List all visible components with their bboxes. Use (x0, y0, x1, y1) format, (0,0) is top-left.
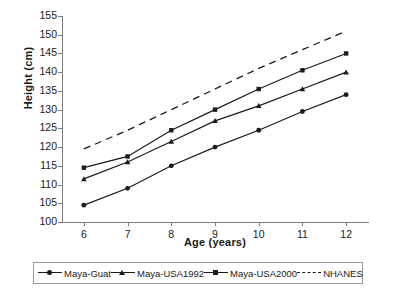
legend-key-icon (204, 268, 228, 278)
data-point (169, 163, 174, 168)
data-point (169, 128, 173, 132)
legend-item-nhanes[interactable]: NHANES (297, 268, 363, 279)
y-tick-label: 100 (31, 215, 57, 227)
legend-label: Maya-USA1992 (137, 268, 204, 279)
chart-legend: Maya-GuatMaya-USA1992Maya-USA2000NHANES (33, 262, 363, 284)
series-canvas (62, 16, 369, 224)
data-point (213, 145, 218, 150)
data-point (300, 68, 304, 72)
plot-area: 100105110115120125130135140145150155 678… (62, 16, 368, 222)
x-tick-label: 8 (159, 228, 183, 240)
legend-key-icon (111, 268, 135, 278)
data-point (81, 203, 86, 208)
legend-item-maya-guat[interactable]: Maya-Guat (38, 268, 111, 279)
x-tick-label: 10 (247, 228, 271, 240)
data-point (213, 107, 217, 111)
data-point (343, 69, 349, 74)
x-tick-label: 12 (334, 228, 358, 240)
data-point (125, 154, 129, 158)
legend-item-maya-usa1992[interactable]: Maya-USA1992 (111, 268, 204, 279)
y-tick-label: 145 (31, 46, 57, 58)
legend-key-icon (297, 268, 321, 278)
data-point (344, 92, 349, 97)
legend-item-maya-usa2000[interactable]: Maya-USA2000 (204, 268, 297, 279)
data-point (125, 186, 130, 191)
data-point (256, 128, 261, 133)
y-tick-label: 115 (31, 159, 57, 171)
y-tick-label: 110 (31, 178, 57, 190)
y-tick-label: 125 (31, 121, 57, 133)
data-point (344, 51, 348, 55)
x-tick-label: 9 (203, 228, 227, 240)
data-point (257, 87, 261, 91)
y-tick-label: 150 (31, 28, 57, 40)
data-point (82, 165, 86, 169)
y-tick-label: 155 (31, 9, 57, 21)
x-tick-label: 7 (116, 228, 140, 240)
y-tick-label: 130 (31, 103, 57, 115)
legend-label: NHANES (323, 268, 363, 279)
legend-label: Maya-Guat (64, 268, 111, 279)
y-tick-label: 140 (31, 65, 57, 77)
legend-key-icon (38, 268, 62, 278)
data-point (300, 109, 305, 114)
y-tick-label: 120 (31, 140, 57, 152)
series-maya-usa2000 (82, 51, 349, 170)
y-tick-label: 135 (31, 84, 57, 96)
x-tick-label: 11 (290, 228, 314, 240)
legend-label: Maya-USA2000 (230, 268, 297, 279)
x-tick-label: 6 (72, 228, 96, 240)
series-nhanes (84, 31, 346, 149)
chart-figure: Height (cm) Age (years) 1001051101151201… (0, 0, 397, 294)
y-tick-label: 105 (31, 196, 57, 208)
series-maya-usa1992 (81, 69, 349, 181)
